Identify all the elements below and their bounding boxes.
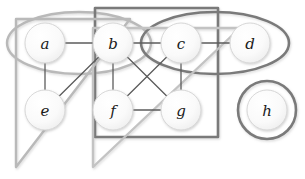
node-label-g: g (176, 102, 186, 120)
node-label-d: d (245, 35, 255, 53)
graph-node-g[interactable]: g (161, 90, 201, 130)
node-group: abcdefgh (25, 23, 287, 130)
diagram-canvas: abcdefgh (0, 0, 305, 179)
graph-node-f[interactable]: f (93, 90, 133, 130)
graph-node-c[interactable]: c (161, 23, 201, 63)
graph-node-a[interactable]: a (25, 23, 65, 63)
graph-node-h[interactable]: h (247, 90, 287, 130)
node-label-b: b (108, 35, 118, 53)
graph-node-d[interactable]: d (230, 23, 270, 63)
node-label-e: e (41, 102, 50, 120)
node-label-a: a (41, 35, 50, 53)
node-label-c: c (177, 35, 186, 53)
node-label-h: h (262, 102, 272, 120)
graph-node-b[interactable]: b (93, 23, 133, 63)
edge-group (45, 43, 231, 110)
graph-node-e[interactable]: e (25, 90, 65, 130)
graph-figure: abcdefgh (0, 0, 305, 179)
